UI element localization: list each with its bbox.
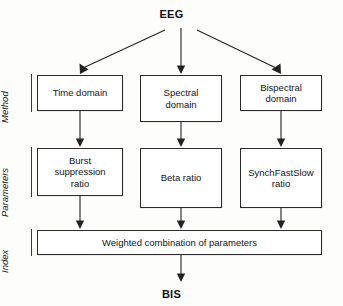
node-beta-ratio[interactable]: Beta ratio — [140, 148, 222, 208]
edge-eeg-to-time-domain — [80, 30, 166, 74]
edge-eeg-to-spectral-domain — [177, 28, 185, 74]
tier-label-parameters: Parameters — [0, 168, 10, 217]
tier-rail-index — [31, 229, 32, 256]
edge-burst-ratio-to-weighted — [76, 196, 84, 229]
node-weighted-combination[interactable]: Weighted combination of parameters — [37, 230, 322, 255]
node-synchfastslow-ratio[interactable]: SynchFastSlowratio — [240, 148, 322, 208]
edge-beta-ratio-to-weighted — [177, 208, 185, 229]
tier-rail-method — [31, 74, 32, 112]
tier-rail-parameters — [31, 147, 32, 197]
bis-output-label: BIS — [0, 288, 343, 300]
edge-weighted-to-bis — [177, 255, 185, 282]
edge-spectral-domain-to-beta-ratio — [177, 122, 185, 147]
edge-eeg-to-bispectral-domain — [197, 30, 281, 74]
node-time-domain[interactable]: Time domain — [37, 75, 123, 111]
edge-time-domain-to-burst-ratio — [76, 111, 84, 147]
node-bispectral-domain[interactable]: Bispectraldomain — [240, 75, 322, 111]
node-burst-suppression-ratio[interactable]: Burstsuppressionratio — [37, 148, 123, 196]
edge-synch-ratio-to-weighted — [277, 208, 285, 229]
eeg-source-label: EEG — [0, 8, 343, 20]
edge-bispectral-domain-to-synch-ratio — [277, 111, 285, 147]
tier-label-method: Method — [0, 91, 10, 123]
node-spectral-domain[interactable]: Spectraldomain — [140, 75, 222, 122]
tier-label-index: Index — [0, 250, 10, 273]
diagram-canvas: EEG Method Parameters Index Time domain … — [0, 0, 343, 306]
